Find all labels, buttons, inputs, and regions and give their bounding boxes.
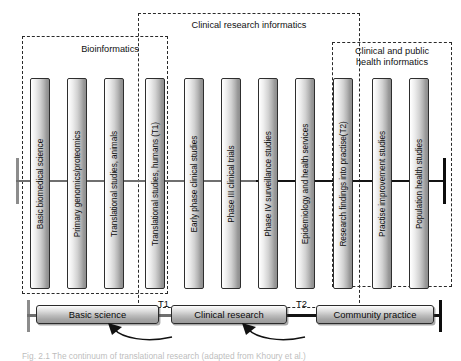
feedback-arrow-clinical-to-basic xyxy=(114,329,172,340)
feedback-arrow-community-to-clinical xyxy=(248,329,305,340)
figure-caption: Fig. 2.1 The continuum of translational … xyxy=(22,351,306,361)
